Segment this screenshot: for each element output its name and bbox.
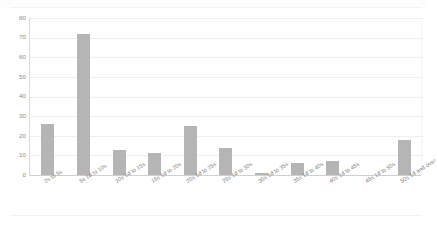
bar[interactable] xyxy=(77,34,90,175)
bar-slot xyxy=(66,18,102,175)
bar-slot xyxy=(279,18,315,175)
y-tick-label: 60 xyxy=(2,54,26,60)
y-tick-label: 10 xyxy=(2,152,26,158)
bar-slot xyxy=(30,18,66,175)
bar[interactable] xyxy=(113,150,126,176)
y-tick-label: 70 xyxy=(2,34,26,40)
y-tick-label: 20 xyxy=(2,133,26,139)
bar-slot xyxy=(101,18,137,175)
bar[interactable] xyxy=(41,124,54,175)
chart-top-border xyxy=(10,7,422,8)
bar-series xyxy=(30,18,422,175)
truncated-toolbar-strip xyxy=(0,0,426,7)
bar-slot xyxy=(244,18,280,175)
y-axis-tick-labels: 01020304050607080 xyxy=(0,18,26,176)
bar-slot xyxy=(315,18,351,175)
bar[interactable] xyxy=(398,140,411,175)
bar[interactable] xyxy=(184,126,197,175)
bar-slot xyxy=(173,18,209,175)
bar-slot xyxy=(351,18,387,175)
y-tick-label: 50 xyxy=(2,74,26,80)
y-tick-label: 80 xyxy=(2,15,26,21)
chart-bottom-border xyxy=(10,215,422,216)
bar-slot xyxy=(137,18,173,175)
y-tick-label: 40 xyxy=(2,93,26,99)
bar-slot xyxy=(208,18,244,175)
bar[interactable] xyxy=(219,148,232,175)
bar-slot xyxy=(386,18,422,175)
y-tick-label: 30 xyxy=(2,113,26,119)
